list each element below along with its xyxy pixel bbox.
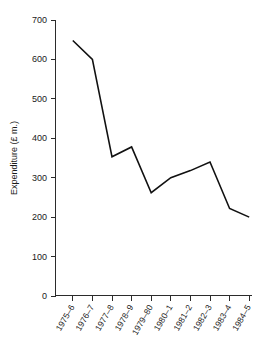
y-tick-label-200: 200 — [32, 212, 47, 222]
y-tick-label-500: 500 — [32, 94, 47, 104]
chart-canvas: 0 100 200 300 400 500 600 700 Expenditur… — [0, 0, 265, 353]
y-tick-label-700: 700 — [32, 15, 47, 25]
line-chart: 0 100 200 300 400 500 600 700 Expenditur… — [0, 0, 265, 353]
y-tick-label-0: 0 — [42, 291, 47, 301]
y-tick-label-100: 100 — [32, 252, 47, 262]
y-tick-label-300: 300 — [32, 173, 47, 183]
y-axis-title: Expenditure (£ m.) — [9, 121, 19, 195]
y-tick-label-600: 600 — [32, 54, 47, 64]
y-tick-label-400: 400 — [32, 133, 47, 143]
